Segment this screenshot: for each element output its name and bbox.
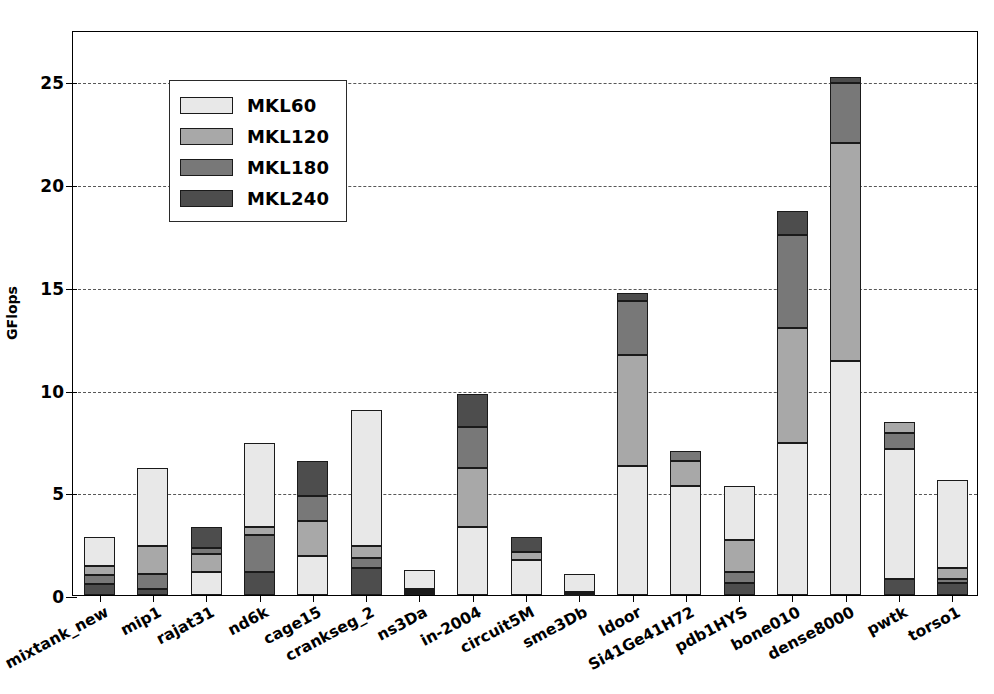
y-tick-label: 0 xyxy=(52,587,64,607)
legend-label: MKL60 xyxy=(247,95,316,116)
legend-item-MKL180[interactable]: MKL180 xyxy=(180,152,336,183)
y-tick-label: 15 xyxy=(40,279,64,299)
y-tick-label: 5 xyxy=(52,484,64,504)
y-tick-mark xyxy=(66,597,73,598)
legend: MKL60MKL120MKL180MKL240 xyxy=(169,80,347,222)
y-tick-mark xyxy=(66,186,73,187)
bar-circuit5M[interactable] xyxy=(511,30,542,595)
y-tick-mark-inner xyxy=(73,83,77,84)
bar-segment-MKL240[interactable] xyxy=(84,584,115,595)
bar-segment-MKL180[interactable] xyxy=(84,575,115,583)
bar-segment-MKL120[interactable] xyxy=(511,552,542,560)
bar-segment-MKL120[interactable] xyxy=(670,461,701,486)
y-axis-title: GFlops xyxy=(4,286,20,340)
bar-segment-MKL60[interactable] xyxy=(884,449,915,578)
bar-segment-MKL180[interactable] xyxy=(670,451,701,461)
bar-segment-MKL180[interactable] xyxy=(777,235,808,327)
legend-swatch-MKL180 xyxy=(180,159,233,176)
y-tick-mark xyxy=(66,289,73,290)
bar-dense8000[interactable] xyxy=(830,30,861,595)
bar-segment-MKL240[interactable] xyxy=(511,537,542,551)
bar-segment-MKL120[interactable] xyxy=(244,527,275,535)
legend-swatch-MKL120 xyxy=(180,128,233,145)
x-tick-mark xyxy=(686,595,687,602)
bar-segment-MKL180[interactable] xyxy=(937,579,968,583)
bar-segment-MKL120[interactable] xyxy=(617,355,648,466)
bar-segment-MKL180[interactable] xyxy=(830,83,861,143)
y-tick-label: 10 xyxy=(40,382,64,402)
y-tick-mark-inner xyxy=(73,186,77,187)
plot-area: 0510152025 MKL60MKL120MKL180MKL240 xyxy=(72,31,978,596)
bar-bone010[interactable] xyxy=(777,30,808,595)
bar-segment-MKL180[interactable] xyxy=(617,301,648,354)
bar-segment-MKL120[interactable] xyxy=(84,566,115,575)
y-tick-mark-inner xyxy=(73,494,77,495)
legend-label: MKL120 xyxy=(247,126,329,147)
x-tick-label-text: mixtank_new xyxy=(2,603,111,673)
bar-segment-MKL240[interactable] xyxy=(191,527,222,548)
bar-segment-MKL60[interactable] xyxy=(724,486,755,539)
bar-segment-MKL120[interactable] xyxy=(351,546,382,558)
bar-segment-MKL120[interactable] xyxy=(724,540,755,573)
bar-segment-MKL120[interactable] xyxy=(297,521,328,556)
bar-segment-MKL240[interactable] xyxy=(617,293,648,301)
legend-swatch-MKL240 xyxy=(180,190,233,207)
bar-segment-MKL60[interactable] xyxy=(244,443,275,527)
legend-item-MKL120[interactable]: MKL120 xyxy=(180,121,336,152)
bar-torso1[interactable] xyxy=(937,30,968,595)
bar-segment-MKL120[interactable] xyxy=(884,422,915,432)
bar-segment-MKL60[interactable] xyxy=(351,410,382,546)
y-tick-mark xyxy=(66,392,73,393)
legend-item-MKL240[interactable]: MKL240 xyxy=(180,183,336,214)
legend-label: MKL180 xyxy=(247,157,329,178)
y-tick-label: 25 xyxy=(40,73,64,93)
y-tick-mark-inner xyxy=(73,597,77,598)
bar-in-2004[interactable] xyxy=(457,30,488,595)
bar-segment-MKL240[interactable] xyxy=(777,211,808,236)
legend-item-MKL60[interactable]: MKL60 xyxy=(180,90,336,121)
bar-segment-MKL60[interactable] xyxy=(830,361,861,595)
x-tick-mark xyxy=(313,595,314,602)
bar-segment-MKL60[interactable] xyxy=(937,480,968,568)
bar-segment-MKL120[interactable] xyxy=(457,468,488,528)
x-tick-mark xyxy=(206,595,207,602)
bar-ns3Da[interactable] xyxy=(404,30,435,595)
legend-swatch-MKL60 xyxy=(180,97,233,114)
legend-label: MKL240 xyxy=(247,188,329,209)
bar-segment-MKL60[interactable] xyxy=(84,537,115,566)
y-tick-mark xyxy=(66,83,73,84)
bar-mixtank_new[interactable] xyxy=(84,30,115,595)
bar-crankseg_2[interactable] xyxy=(351,30,382,595)
bar-segment-MKL240[interactable] xyxy=(457,394,488,427)
bar-segment-MKL180[interactable] xyxy=(297,496,328,521)
figure: GFlops 0510152025 MKL60MKL120MKL180MKL24… xyxy=(0,0,994,694)
bar-segment-MKL120[interactable] xyxy=(777,328,808,443)
bar-pwtk[interactable] xyxy=(884,30,915,595)
bar-segment-MKL180[interactable] xyxy=(244,535,275,572)
bar-segment-MKL240[interactable] xyxy=(830,77,861,83)
bar-segment-MKL120[interactable] xyxy=(830,143,861,361)
bar-ldoor[interactable] xyxy=(617,30,648,595)
y-tick-mark-inner xyxy=(73,392,77,393)
bar-pdb1HYS[interactable] xyxy=(724,30,755,595)
x-tick-mark xyxy=(100,595,101,602)
x-tick-mark xyxy=(952,595,953,602)
bar-mip1[interactable] xyxy=(137,30,168,595)
bar-segment-MKL60[interactable] xyxy=(137,468,168,546)
y-tick-mark-inner xyxy=(73,289,77,290)
bar-segment-MKL180[interactable] xyxy=(884,433,915,449)
y-tick-mark xyxy=(66,494,73,495)
bar-segment-MKL180[interactable] xyxy=(351,558,382,568)
bar-Si41Ge41H72[interactable] xyxy=(670,30,701,595)
bar-sme3Db[interactable] xyxy=(564,30,595,595)
bar-segment-MKL240[interactable] xyxy=(297,461,328,496)
y-tick-label: 20 xyxy=(40,176,64,196)
bar-segment-MKL180[interactable] xyxy=(457,427,488,468)
bar-segment-MKL60[interactable] xyxy=(670,486,701,595)
